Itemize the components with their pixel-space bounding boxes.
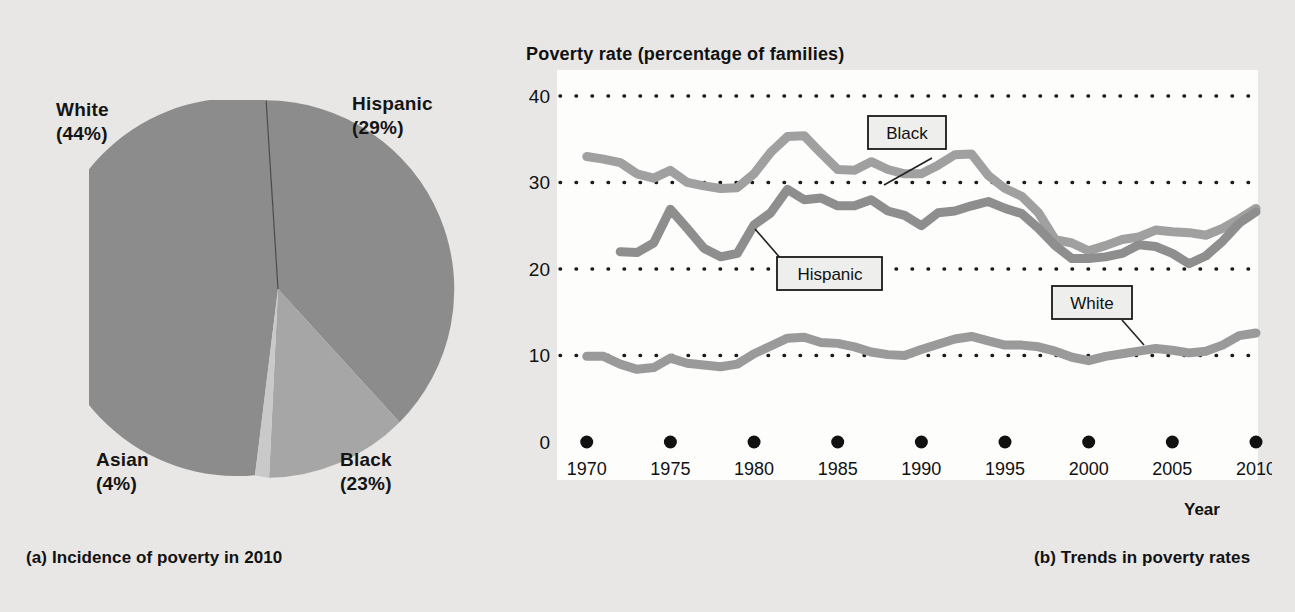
yaxis-label-0: 0 bbox=[539, 432, 550, 453]
pie-label-asian: Asian (4%) bbox=[96, 448, 149, 496]
panel-b-line-chart: Poverty rate (percentage of families) 01… bbox=[512, 0, 1295, 612]
series-label-white-text: White bbox=[1070, 294, 1113, 313]
yaxis-label-40: 40 bbox=[529, 86, 550, 107]
xaxis-title: Year bbox=[1184, 500, 1220, 520]
panel-a-pie-chart: White (44%) Hispanic (29%) Asian (4%) Bl… bbox=[0, 0, 512, 612]
xaxis-marker-2010 bbox=[1250, 436, 1263, 449]
xaxis-label-1985: 1985 bbox=[818, 459, 858, 479]
xaxis-label-1975: 1975 bbox=[650, 459, 690, 479]
pie-slice-white[interactable] bbox=[89, 100, 278, 476]
pie-label-black: Black (23%) bbox=[340, 448, 392, 496]
series-label-hispanic-text: Hispanic bbox=[797, 265, 863, 284]
yaxis-title: Poverty rate (percentage of families) bbox=[526, 44, 845, 65]
xaxis-label-2005: 2005 bbox=[1152, 459, 1192, 479]
xaxis-label-2000: 2000 bbox=[1069, 459, 1109, 479]
xaxis-tick-labels: 197019751980198519901995200020052010 bbox=[567, 459, 1272, 479]
xaxis-label-1980: 1980 bbox=[734, 459, 774, 479]
xaxis-label-1995: 1995 bbox=[985, 459, 1025, 479]
xaxis-label-2010: 2010 bbox=[1236, 459, 1272, 479]
xaxis-label-1990: 1990 bbox=[901, 459, 941, 479]
xaxis-marker-1980 bbox=[748, 436, 761, 449]
pie-label-hispanic: Hispanic (29%) bbox=[352, 92, 433, 140]
xaxis-marker-1970 bbox=[580, 436, 593, 449]
xaxis-marker-1990 bbox=[915, 436, 928, 449]
xaxis-marker-1995 bbox=[999, 436, 1012, 449]
yaxis-label-10: 10 bbox=[529, 345, 550, 366]
xaxis-marker-1985 bbox=[831, 436, 844, 449]
yaxis-label-20: 20 bbox=[529, 259, 550, 280]
caption-panel-b: (b) Trends in poverty rates bbox=[1034, 548, 1250, 568]
line-chart-svg: 010203040 197019751980198519901995200020… bbox=[512, 70, 1272, 490]
xaxis-marker-2000 bbox=[1082, 436, 1095, 449]
yaxis-tick-labels: 010203040 bbox=[529, 86, 550, 453]
pie-chart bbox=[89, 100, 467, 478]
caption-panel-a: (a) Incidence of poverty in 2010 bbox=[26, 548, 282, 568]
pie-chart-svg bbox=[89, 100, 467, 478]
yaxis-label-30: 30 bbox=[529, 172, 550, 193]
xaxis-marker-2005 bbox=[1166, 436, 1179, 449]
series-label-black-text: Black bbox=[886, 124, 928, 143]
poverty-figure: White (44%) Hispanic (29%) Asian (4%) Bl… bbox=[0, 0, 1295, 612]
xaxis-label-1970: 1970 bbox=[567, 459, 607, 479]
xaxis-marker-1975 bbox=[664, 436, 677, 449]
pie-label-white: White (44%) bbox=[56, 98, 109, 146]
